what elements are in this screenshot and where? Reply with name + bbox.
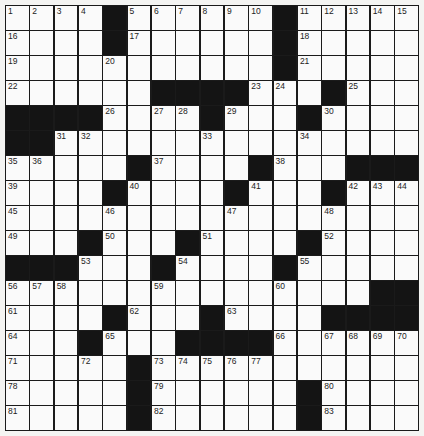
crossword-cell[interactable]: 45	[6, 206, 29, 230]
crossword-cell[interactable]	[128, 56, 151, 80]
crossword-cell[interactable]: 16	[6, 31, 29, 55]
crossword-cell[interactable]	[79, 381, 102, 405]
crossword-cell[interactable]	[30, 81, 53, 105]
crossword-cell[interactable]	[249, 406, 272, 430]
crossword-cell[interactable]	[103, 81, 126, 105]
crossword-cell[interactable]	[30, 306, 53, 330]
crossword-cell[interactable]	[274, 206, 297, 230]
crossword-cell[interactable]: 67	[322, 331, 345, 355]
crossword-cell[interactable]	[371, 406, 394, 430]
crossword-cell[interactable]	[128, 331, 151, 355]
crossword-cell[interactable]: 5	[128, 6, 151, 30]
crossword-cell[interactable]	[395, 406, 418, 430]
crossword-cell[interactable]: 81	[6, 406, 29, 430]
crossword-cell[interactable]	[30, 181, 53, 205]
crossword-cell[interactable]: 71	[6, 356, 29, 380]
crossword-cell[interactable]	[128, 81, 151, 105]
crossword-cell[interactable]	[30, 356, 53, 380]
crossword-cell[interactable]	[176, 381, 199, 405]
crossword-cell[interactable]: 79	[152, 381, 175, 405]
crossword-cell[interactable]: 7	[176, 6, 199, 30]
crossword-cell[interactable]	[322, 31, 345, 55]
crossword-cell[interactable]: 9	[225, 6, 248, 30]
crossword-cell[interactable]	[152, 331, 175, 355]
crossword-cell[interactable]	[79, 406, 102, 430]
crossword-cell[interactable]	[152, 206, 175, 230]
crossword-cell[interactable]	[55, 56, 78, 80]
crossword-cell[interactable]: 27	[152, 106, 175, 130]
crossword-cell[interactable]	[55, 181, 78, 205]
crossword-cell[interactable]: 8	[201, 6, 224, 30]
crossword-cell[interactable]	[201, 31, 224, 55]
crossword-cell[interactable]: 70	[395, 331, 418, 355]
crossword-cell[interactable]: 69	[371, 331, 394, 355]
crossword-cell[interactable]: 57	[30, 281, 53, 305]
crossword-cell[interactable]	[128, 256, 151, 280]
crossword-cell[interactable]	[103, 356, 126, 380]
crossword-cell[interactable]	[79, 206, 102, 230]
crossword-cell[interactable]	[30, 331, 53, 355]
crossword-cell[interactable]	[55, 306, 78, 330]
crossword-cell[interactable]: 33	[201, 131, 224, 155]
crossword-cell[interactable]: 26	[103, 106, 126, 130]
crossword-cell[interactable]: 65	[103, 331, 126, 355]
crossword-cell[interactable]	[55, 31, 78, 55]
crossword-cell[interactable]	[55, 331, 78, 355]
crossword-cell[interactable]	[274, 231, 297, 255]
crossword-cell[interactable]: 6	[152, 6, 175, 30]
crossword-cell[interactable]: 29	[225, 106, 248, 130]
crossword-cell[interactable]	[249, 56, 272, 80]
crossword-cell[interactable]: 43	[371, 181, 394, 205]
crossword-cell[interactable]: 30	[322, 106, 345, 130]
crossword-cell[interactable]	[55, 156, 78, 180]
crossword-cell[interactable]	[103, 131, 126, 155]
crossword-cell[interactable]	[103, 281, 126, 305]
crossword-cell[interactable]	[347, 106, 370, 130]
crossword-cell[interactable]	[249, 31, 272, 55]
crossword-cell[interactable]	[176, 281, 199, 305]
crossword-cell[interactable]: 35	[6, 156, 29, 180]
crossword-cell[interactable]	[371, 31, 394, 55]
crossword-cell[interactable]: 46	[103, 206, 126, 230]
crossword-cell[interactable]: 28	[176, 106, 199, 130]
crossword-cell[interactable]	[395, 356, 418, 380]
crossword-cell[interactable]	[176, 181, 199, 205]
crossword-cell[interactable]: 63	[225, 306, 248, 330]
crossword-cell[interactable]	[249, 106, 272, 130]
crossword-cell[interactable]	[298, 156, 321, 180]
crossword-cell[interactable]	[347, 231, 370, 255]
crossword-cell[interactable]: 48	[322, 206, 345, 230]
crossword-cell[interactable]	[30, 406, 53, 430]
crossword-cell[interactable]	[347, 281, 370, 305]
crossword-cell[interactable]: 38	[274, 156, 297, 180]
crossword-cell[interactable]	[395, 31, 418, 55]
crossword-cell[interactable]: 41	[249, 181, 272, 205]
crossword-cell[interactable]: 13	[347, 6, 370, 30]
crossword-cell[interactable]: 14	[371, 6, 394, 30]
crossword-cell[interactable]	[201, 56, 224, 80]
crossword-cell[interactable]: 80	[322, 381, 345, 405]
crossword-cell[interactable]	[298, 331, 321, 355]
crossword-cell[interactable]	[152, 181, 175, 205]
crossword-cell[interactable]	[152, 31, 175, 55]
crossword-cell[interactable]: 25	[347, 81, 370, 105]
crossword-cell[interactable]	[371, 256, 394, 280]
crossword-cell[interactable]	[103, 381, 126, 405]
crossword-cell[interactable]	[322, 156, 345, 180]
crossword-cell[interactable]: 42	[347, 181, 370, 205]
crossword-cell[interactable]	[225, 56, 248, 80]
crossword-cell[interactable]	[55, 206, 78, 230]
crossword-cell[interactable]: 11	[298, 6, 321, 30]
crossword-cell[interactable]	[30, 206, 53, 230]
crossword-cell[interactable]: 59	[152, 281, 175, 305]
crossword-cell[interactable]	[371, 231, 394, 255]
crossword-cell[interactable]: 77	[249, 356, 272, 380]
crossword-cell[interactable]: 82	[152, 406, 175, 430]
crossword-cell[interactable]	[79, 181, 102, 205]
crossword-cell[interactable]: 15	[395, 6, 418, 30]
crossword-cell[interactable]	[322, 131, 345, 155]
crossword-cell[interactable]	[274, 131, 297, 155]
crossword-cell[interactable]	[79, 306, 102, 330]
crossword-cell[interactable]: 75	[201, 356, 224, 380]
crossword-cell[interactable]	[128, 281, 151, 305]
